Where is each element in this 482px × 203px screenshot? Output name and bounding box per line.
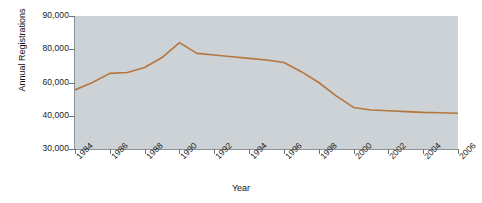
y-tick-label: 30,000 [23, 143, 69, 153]
y-tick-label: 90,000 [23, 10, 69, 20]
y-tick-label: 80,000 [23, 43, 69, 53]
y-tick-label: 40,000 [23, 110, 69, 120]
line-chart-figure: 90,00080,00060,00040,00030,000 Annual Re… [0, 0, 482, 203]
x-axis-title: Year [0, 183, 482, 193]
y-axis-title: Annual Registrations [17, 0, 27, 115]
x-tick-label: 2006 [457, 140, 478, 161]
data-series-line [75, 16, 458, 149]
y-tick-mark [69, 49, 75, 50]
y-tick-mark [69, 116, 75, 117]
y-tick-mark [69, 16, 75, 17]
y-tick-mark [69, 83, 75, 84]
y-tick-label: 60,000 [23, 77, 69, 87]
